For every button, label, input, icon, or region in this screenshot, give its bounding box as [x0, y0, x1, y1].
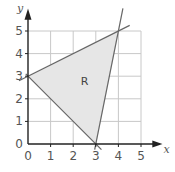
y-tick-label: 5 — [15, 24, 23, 38]
x-tick-label: 2 — [69, 149, 77, 163]
x-tick-label: 3 — [92, 149, 100, 163]
y-axis-arrow-icon — [25, 8, 32, 19]
x-axis-label: x — [164, 143, 171, 156]
x-axis-arrow-icon — [152, 141, 162, 148]
y-tick-label: 2 — [15, 92, 23, 106]
x-tick-label: 1 — [47, 149, 55, 163]
x-tick-label: 5 — [137, 149, 145, 163]
y-tick-label: 0 — [15, 137, 23, 151]
x-tick-label: 4 — [115, 149, 123, 163]
graph-diagram: 012345012345 x y R — [0, 0, 175, 172]
y-tick-label: 4 — [15, 47, 23, 61]
region-label: R — [81, 75, 89, 88]
y-tick-label: 1 — [15, 114, 23, 128]
y-axis-label: y — [16, 2, 24, 15]
y-tick-label: 3 — [15, 69, 23, 83]
x-tick-label: 0 — [24, 149, 32, 163]
